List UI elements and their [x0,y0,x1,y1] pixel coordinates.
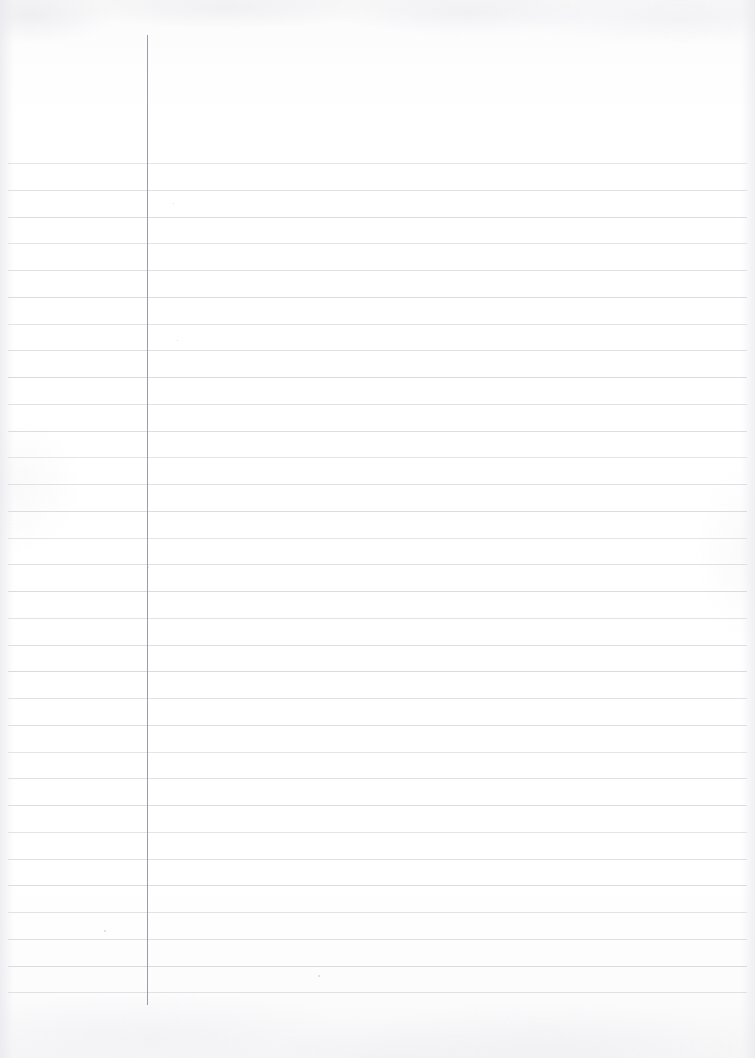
notebook-page [0,0,755,1058]
margin-rule-line [147,35,148,1005]
page-content-area[interactable] [155,40,745,1003]
scan-speck [104,930,106,932]
scan-speck [148,567,149,568]
